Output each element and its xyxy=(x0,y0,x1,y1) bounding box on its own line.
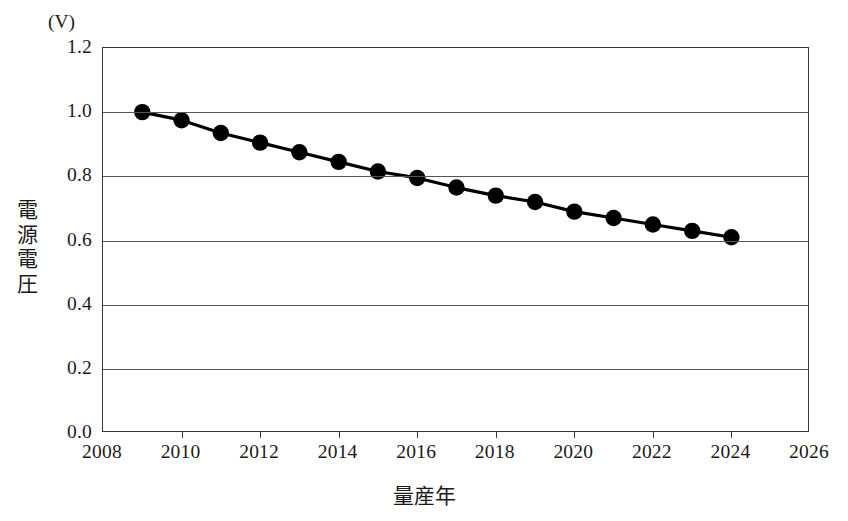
x-tick-label: 2022 xyxy=(610,441,694,463)
x-tick-label: 2018 xyxy=(453,441,537,463)
data-point-marker xyxy=(684,223,700,239)
x-axis-tick xyxy=(182,431,183,438)
data-point-marker xyxy=(213,125,229,141)
series-line xyxy=(142,112,731,237)
x-axis-tick xyxy=(653,431,654,438)
x-axis-title: 量産年 xyxy=(0,484,848,508)
chart-figure: (V) 電源電圧 0.00.20.40.60.81.01.2 200820102… xyxy=(0,0,848,521)
x-tick-label: 2020 xyxy=(531,441,615,463)
x-axis-tick xyxy=(496,431,497,438)
x-axis-tick xyxy=(574,431,575,438)
x-axis-tick xyxy=(260,431,261,438)
x-tick-label: 2008 xyxy=(60,441,144,463)
plot-area xyxy=(102,47,809,432)
x-tick-label: 2014 xyxy=(296,441,380,463)
x-tick-label: 2026 xyxy=(767,441,848,463)
data-point-marker xyxy=(330,154,346,170)
gridline-horizontal xyxy=(103,176,808,177)
y-tick-label: 0.4 xyxy=(46,294,92,314)
y-tick-label: 0.2 xyxy=(46,358,92,378)
y-tick-label: 1.2 xyxy=(46,37,92,57)
y-axis-title: 電源電圧 xyxy=(14,198,40,296)
x-axis-tick xyxy=(731,431,732,438)
data-point-marker xyxy=(173,112,189,128)
y-tick-label: 0.8 xyxy=(46,165,92,185)
data-point-marker xyxy=(566,203,582,219)
x-tick-label: 2024 xyxy=(688,441,772,463)
data-point-marker xyxy=(645,216,661,232)
x-tick-label: 2016 xyxy=(374,441,458,463)
data-point-marker xyxy=(291,144,307,160)
gridline-horizontal xyxy=(103,112,808,113)
data-point-marker xyxy=(605,210,621,226)
data-point-marker xyxy=(488,187,504,203)
x-tick-label: 2012 xyxy=(217,441,301,463)
x-axis-tick xyxy=(417,431,418,438)
x-axis-tick xyxy=(339,431,340,438)
y-tick-label: 0.6 xyxy=(46,230,92,250)
gridline-horizontal xyxy=(103,305,808,306)
x-tick-label: 2010 xyxy=(139,441,223,463)
data-point-marker xyxy=(448,179,464,195)
data-point-marker xyxy=(252,134,268,150)
y-tick-label: 0.0 xyxy=(46,422,92,442)
gridline-horizontal xyxy=(103,369,808,370)
data-point-marker xyxy=(527,194,543,210)
data-point-marker xyxy=(723,229,739,245)
y-tick-label: 1.0 xyxy=(46,101,92,121)
gridline-horizontal xyxy=(103,241,808,242)
data-point-marker xyxy=(409,170,425,186)
